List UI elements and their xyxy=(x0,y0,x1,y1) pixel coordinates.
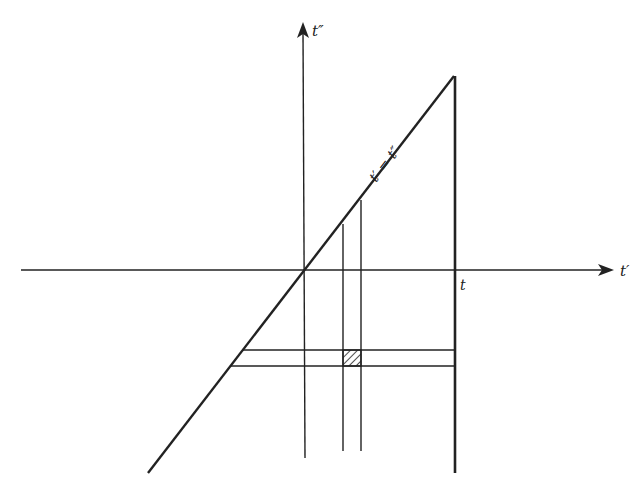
horizontal-axis-label: t′ xyxy=(620,262,630,280)
integration-region-diagram: t′ t″ t′ = t″ t xyxy=(0,0,643,491)
hatched-area-element xyxy=(343,350,361,366)
t-tick-label: t xyxy=(460,277,466,293)
diagonal-line-t-prime-equals-t-double-prime xyxy=(148,76,454,473)
vertical-axis-label: t″ xyxy=(312,22,324,40)
vertical-axis-t-double-prime xyxy=(303,32,305,458)
